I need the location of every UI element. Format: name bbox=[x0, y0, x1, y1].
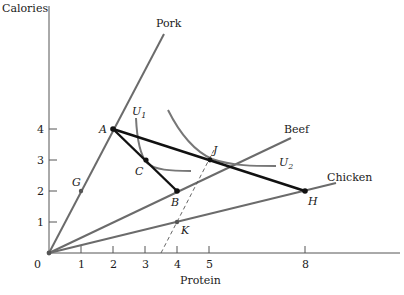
point-origin bbox=[47, 251, 52, 256]
pork-label: Pork bbox=[156, 17, 182, 30]
label-h: H bbox=[307, 195, 318, 208]
indifference-curve-u2 bbox=[168, 110, 276, 166]
x-tick-label-5: 5 bbox=[206, 258, 213, 271]
origin-label: 0 bbox=[34, 258, 41, 271]
label-j: J bbox=[211, 144, 218, 157]
label-k: K bbox=[180, 224, 190, 237]
label-g: G bbox=[72, 176, 81, 189]
label-c: C bbox=[135, 165, 144, 178]
u1-label: U1 bbox=[132, 105, 146, 120]
point-h bbox=[302, 188, 308, 194]
food-characteristics-diagram: Calories Protein 0 4 3 2 1 1 2 3 4 5 8 P… bbox=[0, 0, 404, 295]
diagram-stage: Calories Protein 0 4 3 2 1 1 2 3 4 5 8 P… bbox=[0, 0, 404, 295]
label-b: B bbox=[170, 196, 179, 209]
x-tick-label-2: 2 bbox=[110, 258, 117, 271]
point-b bbox=[174, 188, 180, 194]
u2-label: U2 bbox=[279, 156, 293, 171]
y-tick-label-4: 4 bbox=[37, 123, 44, 136]
beef-ray bbox=[49, 138, 291, 253]
y-tick-label-1: 1 bbox=[37, 216, 44, 229]
dashed-line-k-j bbox=[161, 150, 214, 253]
point-g bbox=[79, 189, 83, 193]
x-tick-label-4: 4 bbox=[174, 258, 181, 271]
beef-label: Beef bbox=[284, 123, 310, 136]
point-j bbox=[208, 158, 213, 163]
y-tick-label-3: 3 bbox=[37, 154, 44, 167]
point-a bbox=[110, 126, 116, 132]
chicken-label: Chicken bbox=[327, 171, 372, 184]
y-axis-label: Calories bbox=[2, 2, 48, 15]
y-tick-label-2: 2 bbox=[37, 185, 44, 198]
label-a: A bbox=[98, 123, 107, 136]
chicken-ray bbox=[49, 183, 336, 253]
x-tick-label-8: 8 bbox=[302, 258, 309, 271]
pork-ray bbox=[49, 34, 164, 253]
x-axis-label: Protein bbox=[180, 274, 221, 287]
point-k bbox=[175, 220, 179, 224]
point-c bbox=[143, 157, 148, 162]
x-tick-label-1: 1 bbox=[78, 258, 85, 271]
x-tick-label-3: 3 bbox=[142, 258, 149, 271]
